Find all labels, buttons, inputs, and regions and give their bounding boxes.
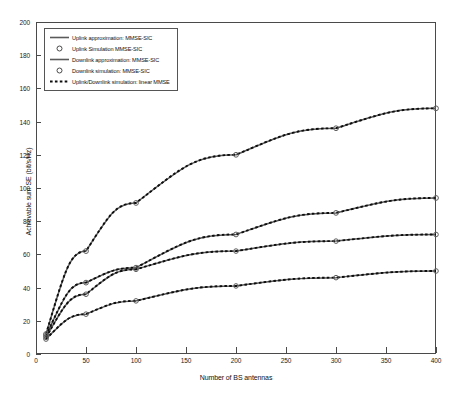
- y-tick-mark: [36, 288, 41, 289]
- y-tick-mark: [36, 321, 41, 322]
- y-tick-mark: [36, 55, 41, 56]
- y-tick-mark: [36, 155, 41, 156]
- y-tick-label: 40: [6, 284, 30, 291]
- legend-entry[interactable]: Uplink/Downlink simulation: linear MMSE: [48, 76, 175, 87]
- y-tick-mark: [36, 122, 41, 123]
- legend-label: Uplink approximation: MMSE-SIC: [72, 35, 152, 41]
- x-tick-mark: [86, 347, 87, 353]
- x-tick-mark: [236, 347, 237, 353]
- y-tick-mark: [36, 354, 41, 355]
- circle-marker-icon: [48, 43, 72, 54]
- y-tick-mark: [36, 188, 41, 189]
- x-tick-label: 250: [271, 357, 301, 364]
- legend-entry[interactable]: Uplink approximation: MMSE-SIC: [48, 32, 175, 43]
- x-tick-label: 200: [221, 357, 251, 364]
- y-tick-label: 200: [6, 19, 30, 26]
- legend-label: Uplink/Downlink simulation: linear MMSE: [72, 79, 170, 85]
- legend-entry[interactable]: Downlink approximation: MMSE-SIC: [48, 54, 175, 65]
- x-tick-label: 400: [421, 357, 451, 364]
- x-tick-mark: [186, 347, 187, 353]
- figure-canvas: 020406080100120140160180200 050100150200…: [0, 0, 459, 408]
- y-tick-mark: [36, 22, 41, 23]
- x-tick-mark: [436, 347, 437, 353]
- y-tick-mark: [36, 88, 41, 89]
- solid-line-icon: [48, 54, 72, 65]
- x-tick-mark: [286, 347, 287, 353]
- y-tick-label: 180: [6, 52, 30, 59]
- x-tick-mark: [386, 347, 387, 353]
- x-tick-label: 50: [71, 357, 101, 364]
- x-tick-mark: [36, 347, 37, 353]
- y-tick-mark: [36, 254, 41, 255]
- y-tick-label: 160: [6, 85, 30, 92]
- x-tick-label: 300: [321, 357, 351, 364]
- x-axis-label: Number of BS antennas: [136, 374, 336, 381]
- x-tick-mark: [136, 347, 137, 353]
- x-tick-label: 150: [171, 357, 201, 364]
- legend-entry[interactable]: Uplink Simulation MMSE-SIC: [48, 43, 175, 54]
- solid-line-icon: [48, 32, 72, 43]
- circle-marker-icon: [48, 65, 72, 76]
- x-tick-label: 350: [371, 357, 401, 364]
- y-tick-mark: [36, 221, 41, 222]
- chart-legend: Uplink approximation: MMSE-SICUplink Sim…: [44, 28, 178, 91]
- legend-label: Downlink approximation: MMSE-SIC: [72, 57, 159, 63]
- y-tick-label: 20: [6, 317, 30, 324]
- x-tick-label: 100: [121, 357, 151, 364]
- legend-label: Downlink simulation: MMSE-SIC: [72, 68, 150, 74]
- legend-label: Uplink Simulation MMSE-SIC: [72, 46, 142, 52]
- dashed-line-icon: [48, 76, 72, 87]
- legend-entry[interactable]: Downlink simulation: MMSE-SIC: [48, 65, 175, 76]
- x-tick-mark: [336, 347, 337, 353]
- x-tick-label: 0: [21, 357, 51, 364]
- y-axis-label: Achievable sum SE (bit/s/Hz): [25, 112, 32, 272]
